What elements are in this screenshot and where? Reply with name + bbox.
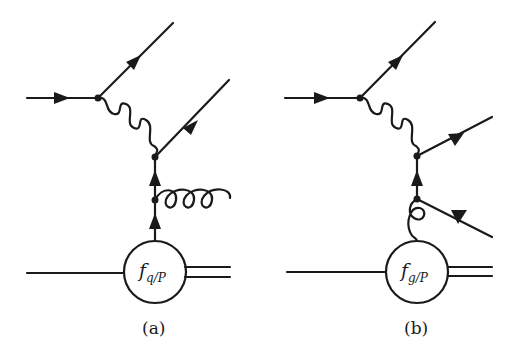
vertex-dot	[152, 154, 159, 161]
panel-a	[27, 23, 230, 303]
pdf-symbol: f	[401, 259, 408, 281]
vertex-dot	[414, 153, 421, 160]
arrow-icon	[54, 92, 70, 104]
pdf-subscript: q/P	[146, 271, 166, 285]
outgoing-quark-line	[155, 80, 229, 157]
vertex-dot	[152, 197, 159, 204]
photon-wavy-line	[360, 98, 419, 156]
blob-label-a: fq/P	[139, 259, 166, 285]
caption-a: (a)	[142, 318, 165, 338]
arrow-icon	[314, 92, 330, 104]
arrow-icon	[149, 170, 161, 186]
pdf-symbol: f	[139, 259, 146, 281]
panel-b	[285, 22, 492, 303]
arrow-icon	[411, 170, 423, 186]
outgoing-antiquark-line	[417, 199, 492, 237]
arrow-icon	[149, 213, 161, 229]
gluon-curly-line	[155, 189, 230, 207]
photon-wavy-line	[98, 98, 157, 157]
vertex-dot	[357, 95, 364, 102]
caption-b: (b)	[404, 318, 428, 338]
vertex-dot	[95, 95, 102, 102]
blob-label-b: fg/P	[401, 259, 428, 285]
gluon-curly-line	[408, 199, 424, 241]
feynman-diagrams	[0, 0, 510, 359]
vertex-dot	[414, 196, 421, 203]
pdf-subscript: g/P	[408, 271, 428, 285]
arrow-icon	[183, 120, 198, 135]
